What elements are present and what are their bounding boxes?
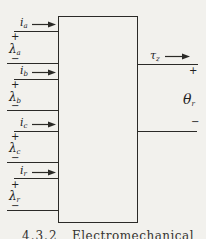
terminal-line bbox=[14, 31, 58, 32]
torque-label: τz bbox=[150, 50, 160, 63]
terminal-line bbox=[14, 131, 58, 132]
arrow-right-icon bbox=[32, 120, 56, 129]
terminal-line bbox=[7, 63, 58, 64]
figure-caption: 4.3.2 Electromechanical bbox=[0, 230, 206, 239]
terminal-line bbox=[138, 131, 197, 132]
angle-label: θr bbox=[183, 92, 195, 108]
plus-sign: + bbox=[11, 80, 19, 90]
plus-sign: + bbox=[11, 32, 19, 42]
caption-number: 4.3.2 bbox=[22, 230, 58, 239]
plus-sign: + bbox=[189, 66, 197, 76]
terminal-line bbox=[7, 110, 58, 111]
terminal-line bbox=[14, 178, 58, 179]
minus-sign: − bbox=[191, 117, 199, 127]
current-label-c: ic bbox=[20, 117, 27, 130]
coupling-block bbox=[58, 16, 138, 223]
figure-canvas: ia + λa − ib + λb − ic + λc − ir + λr − bbox=[0, 0, 206, 239]
terminal-line bbox=[7, 162, 58, 163]
arrow-right-icon bbox=[32, 20, 56, 29]
arrow-right-icon bbox=[32, 68, 56, 77]
arrow-right-icon bbox=[165, 52, 190, 61]
arrow-right-icon bbox=[32, 168, 56, 177]
caption-title: Electromechanical bbox=[72, 230, 194, 239]
terminal-line bbox=[7, 210, 58, 211]
current-label-a: ia bbox=[20, 17, 28, 30]
current-label-r: ir bbox=[20, 165, 27, 178]
terminal-line bbox=[14, 79, 58, 80]
current-label-b: ib bbox=[20, 65, 28, 78]
